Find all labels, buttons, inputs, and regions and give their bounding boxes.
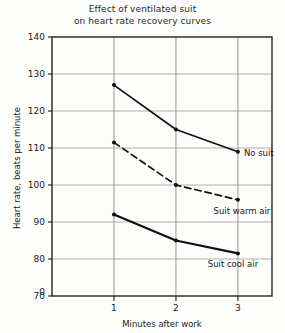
plot-frame — [52, 37, 272, 296]
line-chart-plot: 708090100110120130140 123 0 No suitSuit … — [0, 0, 285, 333]
y-axis-tick-labels: 708090100110120130140 — [28, 32, 45, 301]
annotation-suit-cool-air: Suit cool air — [208, 259, 259, 269]
x-axis-label: Minutes after work — [122, 319, 202, 329]
x-axis-ticks — [114, 296, 238, 301]
origin-tick-label: 0 — [39, 287, 45, 297]
data-point-marker — [112, 140, 116, 144]
y-axis-tick-label: 80 — [34, 254, 46, 264]
data-point-marker — [174, 183, 178, 187]
annotation-suit-warm-air: Suit warm air — [214, 206, 271, 216]
y-axis-tick-label: 90 — [34, 217, 46, 227]
series-annotations: No suitSuit warm airSuit cool air — [208, 148, 275, 270]
origin-label: 0 — [39, 287, 45, 297]
x-axis-tick-label: 1 — [111, 303, 117, 313]
y-axis-tick-label: 100 — [28, 180, 45, 190]
x-axis-tick-label: 3 — [235, 303, 241, 313]
data-point-marker — [174, 239, 178, 243]
y-axis-tick-label: 110 — [28, 143, 45, 153]
annotation-no-suit: No suit — [244, 148, 274, 158]
chart-figure: Effect of ventilated suit on heart rate … — [0, 0, 285, 333]
x-axis-tick-label: 2 — [173, 303, 179, 313]
x-axis-tick-labels: 123 — [111, 303, 241, 313]
y-axis-label: Heart rate, beats per minute — [12, 107, 22, 229]
data-point-marker — [236, 251, 240, 255]
data-point-marker — [174, 128, 178, 132]
vertical-gridlines — [114, 37, 238, 296]
data-point-marker — [236, 198, 240, 202]
data-point-marker — [112, 83, 116, 87]
data-point-marker — [112, 213, 116, 217]
data-point-marker — [236, 150, 240, 154]
y-axis-tick-label: 130 — [28, 69, 45, 79]
plot-border — [52, 37, 272, 296]
y-axis-tick-label: 140 — [28, 32, 45, 42]
horizontal-gridlines — [52, 74, 272, 259]
y-axis-tick-label: 120 — [28, 106, 45, 116]
